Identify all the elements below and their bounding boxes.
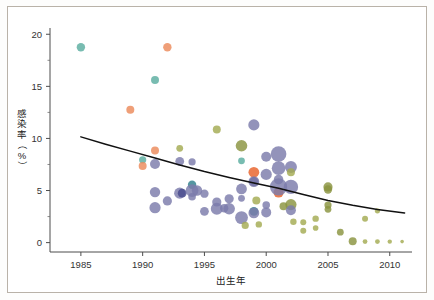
data-point: [256, 221, 262, 227]
data-point: [375, 239, 380, 244]
data-point: [271, 146, 287, 162]
x-tick-label: 2005: [317, 259, 338, 270]
data-point: [286, 205, 296, 215]
data-point: [272, 161, 286, 175]
data-point: [349, 237, 357, 245]
data-point: [163, 196, 172, 205]
data-point: [252, 196, 260, 204]
data-point: [261, 169, 272, 180]
y-tick-label: 0: [37, 237, 42, 248]
x-tick-label: 1990: [132, 259, 153, 270]
y-axis-title-char: 染: [17, 118, 27, 129]
data-point: [261, 152, 271, 162]
data-point: [150, 159, 160, 169]
y-tick-label: 15: [31, 81, 42, 92]
data-point: [150, 187, 160, 197]
y-tick-label: 5: [37, 185, 42, 196]
y-axis-title-char: 率: [17, 129, 27, 140]
data-point: [126, 106, 134, 114]
y-tick-label: 20: [31, 29, 42, 40]
data-point: [313, 225, 319, 231]
data-point: [337, 229, 344, 236]
data-point: [225, 194, 234, 203]
data-point: [362, 216, 368, 222]
data-point: [149, 202, 160, 213]
data-point: [325, 206, 332, 213]
figure-root: 19851990199520002005201005101520出生年感染率（%…: [0, 0, 434, 300]
data-point: [139, 162, 147, 170]
data-point: [213, 126, 221, 134]
y-axis-title-char: %: [18, 150, 27, 161]
data-point: [188, 158, 195, 165]
data-point: [200, 189, 208, 197]
data-point: [77, 43, 85, 51]
data-point: [248, 167, 259, 178]
data-point: [248, 208, 259, 219]
data-point: [200, 207, 209, 216]
axis-labels-layer: 19851990199520002005201005101520出生年感染率（%…: [17, 29, 400, 286]
data-point: [151, 76, 159, 84]
data-point: [300, 219, 306, 225]
x-tick-label: 2010: [379, 259, 400, 270]
x-axis-title: 出生年: [216, 275, 246, 286]
data-point: [236, 184, 247, 195]
data-point: [388, 239, 392, 243]
data-point: [188, 193, 196, 201]
y-axis-title-char: 感: [17, 108, 27, 119]
data-point: [324, 185, 332, 193]
data-point: [400, 240, 404, 244]
data-point: [238, 195, 245, 202]
data-point: [300, 228, 306, 234]
y-tick-label: 10: [31, 133, 42, 144]
y-axis-title-char: ）: [17, 161, 28, 171]
data-point: [238, 157, 245, 164]
data-point: [261, 207, 271, 217]
data-point: [236, 140, 248, 152]
data-point: [178, 189, 187, 198]
data-point: [248, 119, 259, 130]
chart-canvas: 19851990199520002005201005101520出生年感染率（%…: [0, 0, 434, 300]
data-point: [163, 43, 171, 51]
data-point: [176, 145, 183, 152]
data-points-layer: [77, 43, 404, 245]
data-point: [151, 146, 159, 154]
scatter-plot: 19851990199520002005201005101520出生年感染率（%…: [0, 0, 434, 300]
y-axis-title-char: （: [17, 140, 28, 150]
data-point: [287, 168, 295, 176]
data-point: [290, 219, 296, 225]
data-point: [312, 215, 318, 221]
data-point: [223, 203, 235, 215]
data-point: [363, 239, 368, 244]
x-tick-label: 1985: [70, 259, 91, 270]
x-tick-label: 2000: [256, 259, 277, 270]
data-point: [242, 222, 249, 229]
x-tick-label: 1995: [194, 259, 215, 270]
